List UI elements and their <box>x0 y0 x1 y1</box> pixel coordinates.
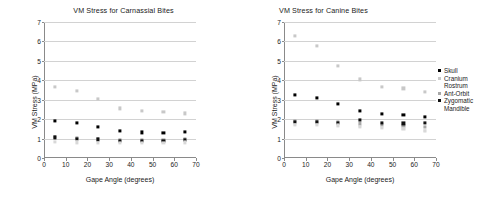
x-tick-label: 70 <box>432 161 439 168</box>
data-point <box>53 140 56 143</box>
x-tick-label: 0 <box>282 161 286 168</box>
gridline <box>284 61 436 62</box>
x-axis-label-left: Gape Angle (degrees) <box>44 176 196 183</box>
legend-marker-icon <box>438 84 441 87</box>
y-tick-label: 7 <box>37 19 41 26</box>
y-tick-label: 1 <box>37 135 41 142</box>
y-tick-label: 1 <box>277 135 281 142</box>
data-point <box>140 142 143 145</box>
x-tick-label: 30 <box>345 161 352 168</box>
data-point <box>380 121 383 124</box>
y-tick-mark <box>282 22 285 23</box>
x-tick-label: 40 <box>127 161 134 168</box>
data-point <box>53 136 56 139</box>
data-point <box>293 34 296 37</box>
gridline <box>284 22 436 23</box>
gridline <box>284 139 436 140</box>
data-point <box>402 114 405 117</box>
legend-marker-icon <box>438 107 441 110</box>
data-point <box>162 111 165 114</box>
chart-title-left: VM Stress for Carnassial Bites <box>0 6 247 15</box>
data-point <box>118 130 121 133</box>
data-point <box>424 115 427 118</box>
legend-marker-icon <box>438 99 441 102</box>
y-tick-mark <box>282 41 285 42</box>
gridline <box>44 41 196 42</box>
data-point <box>315 45 318 48</box>
gridline <box>44 61 196 62</box>
legend-marker-icon <box>438 77 441 80</box>
data-point <box>75 141 78 144</box>
data-point <box>315 123 318 126</box>
data-point <box>162 131 165 134</box>
panel-carnassial-bites: VM Stress for Carnassial Bites VM Stress… <box>0 0 247 203</box>
legend-label: Rostrum <box>444 82 468 89</box>
legend-item: Mandible <box>438 105 492 112</box>
data-point <box>184 141 187 144</box>
data-point <box>424 130 427 133</box>
data-point <box>140 131 143 134</box>
legend-item: Cranium <box>438 75 492 82</box>
data-point <box>97 97 100 100</box>
data-point <box>424 121 427 124</box>
data-point <box>380 126 383 129</box>
data-point <box>358 119 361 122</box>
chart-title-right: VM Stress for Canine Bites <box>279 6 439 15</box>
x-tick-label: 10 <box>62 161 69 168</box>
legend-label: Cranium <box>444 75 468 82</box>
legend-item: Zygomatic <box>438 97 492 104</box>
legend-label: Mandible <box>444 105 470 112</box>
y-tick-label: 7 <box>277 19 281 26</box>
x-tick-label: 0 <box>42 161 46 168</box>
data-point <box>358 109 361 112</box>
data-point <box>184 112 187 115</box>
y-tick-mark <box>42 22 45 23</box>
y-tick-label: 6 <box>277 38 281 45</box>
y-tick-mark <box>42 41 45 42</box>
data-point <box>337 103 340 106</box>
data-point <box>75 121 78 124</box>
gridline <box>44 100 196 101</box>
data-point <box>53 119 56 122</box>
figure-two-scatter-panels: VM Stress for Carnassial Bites VM Stress… <box>0 0 494 203</box>
y-tick-label: 2 <box>277 116 281 123</box>
data-point <box>97 141 100 144</box>
y-tick-mark <box>282 139 285 140</box>
x-tick-label: 20 <box>324 161 331 168</box>
plot-area-right: 01234567 010203040506070 <box>284 22 436 158</box>
y-tick-label: 3 <box>277 96 281 103</box>
data-point <box>118 107 121 110</box>
gridline <box>284 41 436 42</box>
data-point <box>337 64 340 67</box>
y-tick-mark <box>282 119 285 120</box>
data-point <box>358 78 361 81</box>
plot-area-left: 01234567 010203040506070 <box>44 22 196 158</box>
y-tick-mark <box>42 139 45 140</box>
y-tick-mark <box>282 61 285 62</box>
data-point <box>97 125 100 128</box>
x-tick-label: 70 <box>192 161 199 168</box>
data-point <box>315 97 318 100</box>
legend-label: Ant-Orbit <box>444 90 469 97</box>
gridline <box>44 22 196 23</box>
y-tick-label: 4 <box>277 77 281 84</box>
x-tick-label: 60 <box>411 161 418 168</box>
y-tick-mark <box>42 100 45 101</box>
y-tick-label: 0 <box>277 155 281 162</box>
y-tick-label: 6 <box>37 38 41 45</box>
legend-label: Skull <box>444 67 458 74</box>
x-tick-label: 40 <box>367 161 374 168</box>
data-point <box>75 89 78 92</box>
data-point <box>380 85 383 88</box>
data-point <box>293 93 296 96</box>
data-point <box>53 85 56 88</box>
x-tick-label: 30 <box>105 161 112 168</box>
data-point <box>75 137 78 140</box>
data-point <box>402 128 405 131</box>
legend-item: Skull <box>438 67 492 74</box>
data-point <box>140 109 143 112</box>
legend-item: Ant-Orbit <box>438 90 492 97</box>
x-tick-label: 50 <box>149 161 156 168</box>
data-point <box>118 142 121 145</box>
data-point <box>293 123 296 126</box>
